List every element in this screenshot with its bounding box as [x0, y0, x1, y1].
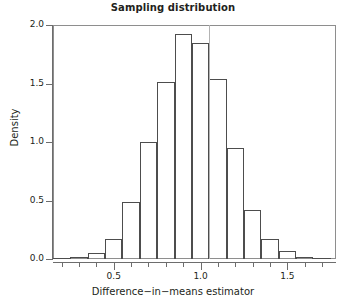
- x-axis-tick-label: 1.5: [267, 271, 307, 281]
- sampling-distribution-figure: Sampling distribution Density 0.00.51.01…: [0, 0, 346, 302]
- y-axis-tick-label: 1.5: [4, 78, 44, 88]
- y-axis-tick: [46, 84, 52, 85]
- x-axis-tick-minor: [322, 262, 323, 267]
- histogram-bar: [175, 34, 192, 259]
- x-axis-tick-minor: [96, 262, 97, 267]
- histogram-bar: [122, 202, 139, 259]
- y-axis-tick-label: 0.0: [4, 253, 44, 263]
- plot-area: [53, 25, 336, 259]
- histogram-bar: [244, 210, 261, 259]
- histogram-bar: [192, 43, 209, 259]
- y-axis-tick-label: 1.0: [4, 136, 44, 146]
- histogram-bar: [157, 82, 174, 259]
- x-axis-tick-minor: [62, 262, 63, 267]
- histogram-bar: [53, 258, 70, 259]
- histogram-bar: [105, 239, 122, 259]
- x-axis-title: Difference−in−means estimator: [0, 286, 346, 297]
- histogram-bar: [88, 253, 105, 259]
- chart-title: Sampling distribution: [0, 2, 346, 13]
- y-axis-tick-label: 2.0: [4, 19, 44, 29]
- x-axis-tick-major: [114, 262, 115, 270]
- x-axis-tick-minor: [270, 262, 271, 267]
- x-axis-tick-major: [201, 262, 202, 270]
- histogram-bar: [279, 251, 296, 259]
- y-axis-tick: [46, 142, 52, 143]
- y-axis-tick: [46, 25, 52, 26]
- true-value-reference-line-icon: [209, 25, 210, 259]
- x-axis-tick-major: [287, 262, 288, 270]
- y-axis-tick: [46, 259, 52, 260]
- histogram-bar: [227, 148, 244, 259]
- x-axis-tick-minor: [235, 262, 236, 267]
- y-axis-tick-label: 0.5: [4, 195, 44, 205]
- histogram-bar: [313, 258, 330, 259]
- x-axis-tick-label: 0.5: [94, 271, 134, 281]
- y-axis-tick: [46, 201, 52, 202]
- histogram-bar: [261, 239, 278, 259]
- x-axis-tick-minor: [253, 262, 254, 267]
- x-axis-tick-minor: [131, 262, 132, 267]
- histogram-bar: [209, 79, 226, 259]
- x-axis-tick-label: 1.0: [181, 271, 221, 281]
- x-axis-tick-minor: [148, 262, 149, 267]
- x-axis-tick-minor: [218, 262, 219, 267]
- x-axis-tick-minor: [305, 262, 306, 267]
- x-axis-tick-minor: [166, 262, 167, 267]
- x-axis-tick-minor: [79, 262, 80, 267]
- histogram-bar: [296, 257, 313, 259]
- histogram-bar: [140, 142, 157, 259]
- y-axis-title: Density: [9, 88, 20, 168]
- x-axis-tick-minor: [183, 262, 184, 267]
- histogram-bar: [70, 257, 87, 259]
